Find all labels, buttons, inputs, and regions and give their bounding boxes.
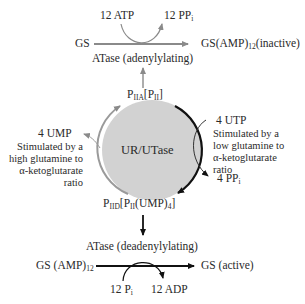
urutase-label: UR/UTase (121, 144, 174, 157)
piia-node-label: PIIA[PII] (127, 88, 163, 101)
atase-adenylylating-label: ATase (adenylylating) (92, 52, 193, 65)
atase-deadenylylating-label: ATase (deadenylylating) (86, 240, 198, 253)
piid-node-label: PIID[PII(UMP)4] (103, 197, 175, 210)
gs-amp-substrate-label: GS (AMP)12 (36, 259, 94, 272)
utp-label: 4 UTP (216, 114, 246, 127)
gs-substrate-label: GS (75, 37, 90, 50)
ppi-label: 12 PPi (164, 9, 193, 22)
low-glutamine-note: Stimulated by a low glutamine to α-ketog… (213, 128, 284, 176)
ump-label: 4 UMP (38, 127, 72, 140)
adenylylation-arrow (94, 24, 188, 44)
pi-label: 12 Pi (110, 283, 133, 296)
right-ppi-label: 4 PPi (217, 172, 241, 185)
atp-label: 12 ATP (100, 9, 134, 22)
adp-label: 12 ADP (151, 283, 188, 296)
gs-active-label: GS (active) (201, 259, 254, 272)
deadenylylation-arrow (96, 263, 194, 281)
gs-amp-inactive-label: GS(AMP)12(inactive) (201, 37, 300, 50)
high-glutamine-note: Stimulated by a high glutamine to α-keto… (9, 141, 83, 189)
